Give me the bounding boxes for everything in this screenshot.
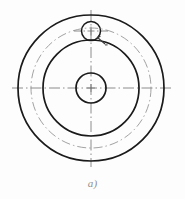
technical-drawing-canvas xyxy=(0,0,185,199)
figure-container: a) xyxy=(0,0,185,199)
figure-caption: a) xyxy=(0,176,185,190)
bore-center-mark-group xyxy=(87,84,95,92)
centerline-group xyxy=(12,10,173,167)
